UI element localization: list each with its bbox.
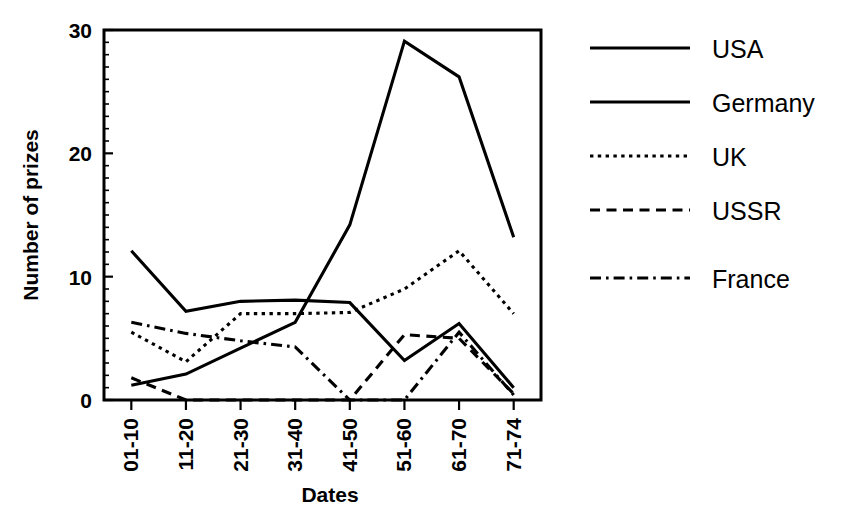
x-axis-tick-label: 01-10 (119, 418, 142, 472)
chart-legend: USAGermanyUKUSSRFrance (590, 35, 815, 293)
y-axis-tick-labels: 0102030 (69, 19, 92, 412)
legend-label-uk: UK (712, 143, 747, 171)
figure-root: 0102030 01-1011-2021-3031-4041-5051-6061… (0, 0, 853, 528)
x-axis-tick-label: 21-30 (229, 418, 252, 472)
x-axis-tick-label: 31-40 (283, 418, 306, 472)
x-axis-tick-labels: 01-1011-2021-3031-4041-5051-6061-7071-74 (119, 418, 524, 472)
data-series-group (131, 41, 513, 400)
y-axis-tick-label: 10 (69, 266, 92, 289)
legend-label-germany: Germany (712, 89, 815, 117)
legend-label-ussr: USSR (712, 197, 781, 225)
x-axis-title: Dates (301, 483, 358, 506)
x-axis-tick-label: 41-50 (338, 418, 361, 472)
series-line-ussr (131, 335, 513, 400)
y-axis-tick-label: 0 (80, 389, 92, 412)
line-chart: 0102030 01-1011-2021-3031-4041-5051-6061… (0, 0, 853, 528)
x-axis-tick-label: 71-74 (502, 418, 525, 472)
series-line-uk (131, 251, 513, 362)
x-axis-tick-label: 11-20 (174, 418, 197, 471)
legend-label-usa: USA (712, 35, 764, 63)
x-axis-tick-label: 51-60 (392, 418, 415, 472)
x-axis-tick-label: 61-70 (447, 418, 470, 472)
y-axis-title: Number of prizes (19, 129, 42, 301)
y-axis-tick-label: 30 (69, 19, 92, 42)
y-axis-tick-label: 20 (69, 142, 92, 165)
legend-label-france: France (712, 265, 790, 293)
